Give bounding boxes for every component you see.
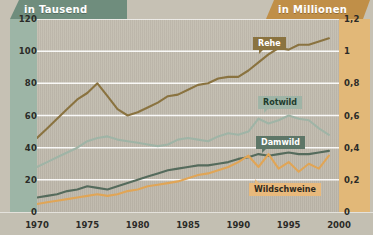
- left-tick-40: 40: [10, 143, 37, 153]
- header-right-text: in Millionen: [278, 4, 347, 15]
- x-tick-1975: 1975: [75, 220, 99, 230]
- left-tick-120: 120: [10, 14, 37, 24]
- right-tick-12: 1,2: [339, 14, 370, 24]
- left-tick-60: 60: [10, 111, 37, 121]
- callout-damwild-label: Damwild: [261, 138, 300, 147]
- callout-rehe-label: Rehe: [258, 39, 281, 48]
- right-tick-02: 0,2: [339, 175, 370, 185]
- right-tick-1: 1: [339, 46, 370, 56]
- right-tick-06: 0,6: [339, 111, 370, 121]
- x-tick-2000: 2000: [327, 220, 351, 230]
- callout-wildschweine-label: Wildschweine: [254, 185, 316, 194]
- callout-rotwild-label: Rotwild: [263, 98, 297, 107]
- x-tick-1985: 1985: [176, 220, 200, 230]
- left-tick-100: 100: [10, 46, 37, 56]
- callout-rehe: Rehe: [253, 37, 286, 50]
- callout-wildschweine: Wildschweine: [249, 183, 321, 196]
- chart-root: in Tausend in Millionen 120100806040200 …: [0, 0, 373, 235]
- callout-rotwild: Rotwild: [258, 96, 302, 109]
- left-tick-0: 0: [10, 207, 37, 217]
- x-tick-1980: 1980: [126, 220, 150, 230]
- x-tick-1990: 1990: [226, 220, 250, 230]
- callout-damwild: Damwild: [256, 136, 305, 149]
- x-tick-1995: 1995: [277, 220, 301, 230]
- right-tick-08: 0,8: [339, 78, 370, 88]
- right-tick-04: 0,4: [339, 143, 370, 153]
- left-tick-80: 80: [10, 78, 37, 88]
- x-tick-1970: 1970: [25, 220, 49, 230]
- right-tick-0: 0: [339, 207, 370, 217]
- left-tick-20: 20: [10, 175, 37, 185]
